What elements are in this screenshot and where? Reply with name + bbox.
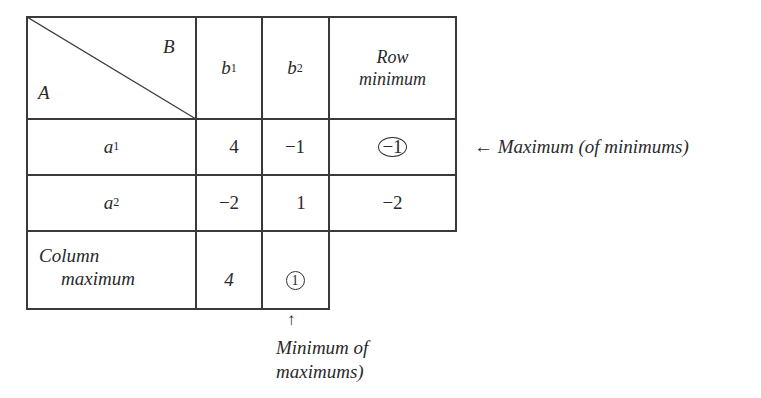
row-label-a1: a1 — [28, 119, 195, 174]
corner-col-player: B — [163, 36, 175, 58]
row-label-a2: a2 — [28, 175, 195, 230]
circled-maximin: −1 — [378, 137, 406, 157]
cell-a2-b1: −2 — [196, 175, 262, 230]
col-header-b1: b1 — [196, 18, 262, 118]
col-max-b2: 1 — [262, 250, 328, 310]
cell-a1-row-min: −1 — [330, 119, 455, 174]
maximin-annotation: ← Maximum (of minimums) — [474, 136, 689, 158]
col-max-label-line2: maximum — [61, 268, 135, 290]
corner-diagonal — [27, 17, 197, 120]
cell-a2-b2: 1 — [262, 175, 328, 230]
row-divider — [26, 230, 457, 232]
up-arrow-icon: ↑ — [287, 310, 296, 330]
cell-a1-b1: 4 — [196, 119, 262, 174]
circled-minimax: 1 — [286, 271, 305, 290]
col-header-row-minimum: Row minimum — [330, 18, 455, 118]
left-arrow-icon: ← — [474, 136, 493, 157]
table-border-right — [455, 16, 457, 232]
cell-a1-b2: −1 — [262, 119, 328, 174]
col-max-b1: 4 — [196, 250, 262, 310]
col-max-label-line1: Column — [39, 245, 99, 267]
minimax-annotation-line1: Minimum of — [276, 337, 368, 359]
cell-a2-row-min: −2 — [330, 175, 455, 230]
col-header-b2: b2 — [262, 18, 328, 118]
minimax-annotation-line2: maximums) — [276, 361, 364, 383]
corner-row-player: A — [38, 82, 50, 104]
